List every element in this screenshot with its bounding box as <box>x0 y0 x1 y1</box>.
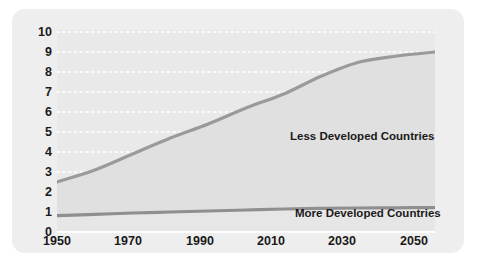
y-tick-10: 10 <box>26 26 52 39</box>
chart-figure: 10 9 8 7 6 5 4 3 2 1 0 1950 1970 1990 20… <box>0 0 484 268</box>
series-label-more-developed: More Developed Countries <box>295 208 441 220</box>
y-tick-3: 3 <box>26 166 52 179</box>
series-label-less-developed: Less Developed Countries <box>290 131 434 143</box>
x-tick-1950: 1950 <box>33 235 81 248</box>
x-tick-2030: 2030 <box>318 235 366 248</box>
y-tick-6: 6 <box>26 106 52 119</box>
y-tick-7: 7 <box>26 86 52 99</box>
y-tick-9: 9 <box>26 46 52 59</box>
y-tick-5: 5 <box>26 126 52 139</box>
y-tick-4: 4 <box>26 146 52 159</box>
x-tick-1990: 1990 <box>176 235 224 248</box>
x-tick-2050: 2050 <box>390 235 438 248</box>
x-tick-1970: 1970 <box>104 235 152 248</box>
x-tick-2010: 2010 <box>247 235 295 248</box>
y-tick-8: 8 <box>26 66 52 79</box>
y-tick-1: 1 <box>26 206 52 219</box>
y-tick-2: 2 <box>26 186 52 199</box>
